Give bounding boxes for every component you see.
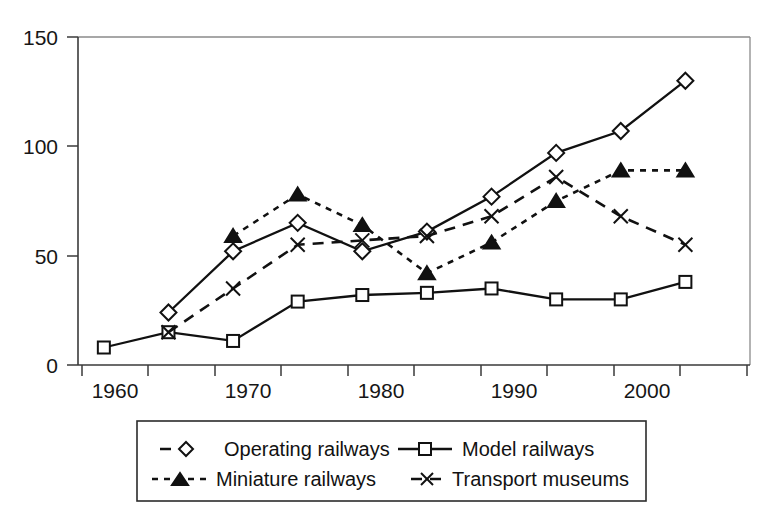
triangle-filled-icon bbox=[290, 187, 306, 200]
y-tick-label-50: 50 bbox=[35, 245, 58, 268]
square-open-icon bbox=[615, 293, 627, 305]
cross-icon bbox=[226, 281, 240, 295]
chart-svg: 150 100 50 0 1960 1970 1980 1990 2000 bbox=[0, 0, 783, 515]
x-axis-ticks: 1960 1970 1980 1990 2000 bbox=[82, 365, 747, 402]
square-open-icon bbox=[421, 287, 433, 299]
line-chart: 150 100 50 0 1960 1970 1980 1990 2000 bbox=[0, 0, 783, 515]
series-model-railways bbox=[98, 276, 692, 354]
y-tick-label-150: 150 bbox=[23, 26, 58, 49]
x-tick-label-1980: 1980 bbox=[358, 379, 405, 402]
square-open-icon bbox=[550, 293, 562, 305]
square-open-icon bbox=[356, 289, 368, 301]
triangle-filled-icon bbox=[548, 194, 564, 207]
cross-icon bbox=[485, 209, 499, 223]
diamond-open-icon bbox=[548, 145, 564, 161]
series-transport-museums bbox=[161, 170, 692, 339]
legend-label-model-railways: Model railways bbox=[462, 438, 594, 460]
square-open-icon bbox=[679, 276, 691, 288]
legend-label-miniature-railways: Miniature railways bbox=[216, 468, 376, 490]
square-open-icon bbox=[419, 443, 431, 455]
x-tick-label-1990: 1990 bbox=[491, 379, 538, 402]
y-tick-label-100: 100 bbox=[23, 135, 58, 158]
y-axis-ticks: 150 100 50 0 bbox=[23, 26, 78, 377]
cross-icon bbox=[549, 170, 563, 184]
x-tick-label-1970: 1970 bbox=[225, 379, 272, 402]
x-tick-label-2000: 2000 bbox=[624, 379, 671, 402]
diamond-open-icon bbox=[484, 189, 500, 205]
x-tick-label-1960: 1960 bbox=[92, 379, 139, 402]
cross-icon bbox=[678, 238, 692, 252]
square-open-icon bbox=[98, 342, 110, 354]
triangle-filled-icon bbox=[613, 163, 629, 176]
square-open-icon bbox=[227, 335, 239, 347]
plot-frame bbox=[78, 37, 750, 365]
series-layer bbox=[98, 73, 694, 354]
square-open-icon bbox=[486, 282, 498, 294]
series-line bbox=[169, 177, 686, 332]
triangle-filled-icon bbox=[225, 229, 241, 242]
chart-legend: Operating railways Model railways Miniat… bbox=[137, 421, 646, 501]
cross-icon bbox=[614, 209, 628, 223]
triangle-filled-icon bbox=[484, 236, 500, 249]
y-tick-label-0: 0 bbox=[46, 354, 58, 377]
legend-label-transport-museums: Transport museums bbox=[452, 468, 629, 490]
diamond-open-icon bbox=[290, 215, 306, 231]
square-open-icon bbox=[292, 296, 304, 308]
triangle-filled-icon bbox=[354, 218, 370, 231]
legend-label-operating-railways: Operating railways bbox=[224, 438, 390, 460]
